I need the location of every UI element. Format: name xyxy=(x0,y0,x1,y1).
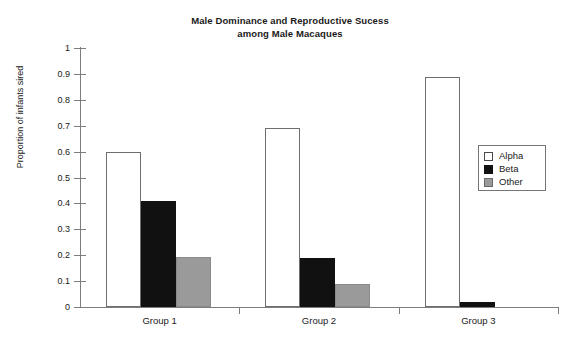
legend-swatch-other-icon xyxy=(484,178,493,187)
y-axis-tick-label: 0.7 xyxy=(26,121,70,130)
bar-alpha-group-1 xyxy=(106,152,141,307)
x-axis-label-group-3: Group 3 xyxy=(433,315,523,327)
chart-title: Male Dominance and Reproductive Sucess a… xyxy=(120,14,460,40)
x-axis-line xyxy=(80,307,558,308)
legend-item-alpha: Alpha xyxy=(484,150,545,162)
legend-label-other: Other xyxy=(499,177,523,187)
legend-item-other: Other xyxy=(484,176,545,188)
x-axis-tick xyxy=(399,307,400,314)
x-axis-label-group-2: Group 2 xyxy=(274,315,364,327)
y-axis-tick-label: 0.1 xyxy=(26,277,70,286)
y-axis-tick-label: 0.5 xyxy=(26,173,70,182)
x-axis-tick xyxy=(239,307,240,314)
chart-title-line-1: Male Dominance and Reproductive Sucess xyxy=(191,15,389,26)
bar-other-group-2 xyxy=(335,284,370,307)
legend: Alpha Beta Other xyxy=(478,145,546,191)
legend-swatch-beta-icon xyxy=(484,165,493,174)
y-axis-tick-labels: 10.90.80.70.60.50.40.30.20.10 xyxy=(20,0,70,345)
y-axis-tick-label: 0.3 xyxy=(26,225,70,234)
bar-chart: Male Dominance and Reproductive Sucess a… xyxy=(0,0,579,345)
bar-beta-group-3 xyxy=(460,302,495,307)
legend-item-beta: Beta xyxy=(484,163,545,175)
legend-swatch-alpha-icon xyxy=(484,152,493,161)
y-axis-tick-label: 0.2 xyxy=(26,251,70,260)
legend-label-beta: Beta xyxy=(499,164,519,174)
y-axis-tick-label: 0.9 xyxy=(26,69,70,78)
bar-beta-group-2 xyxy=(300,258,335,307)
x-axis-tick xyxy=(558,307,559,314)
y-axis-tick-label: 0.8 xyxy=(26,95,70,104)
x-axis-label-group-1: Group 1 xyxy=(115,315,205,327)
bar-beta-group-1 xyxy=(141,201,176,307)
y-axis-tick-label: 0.4 xyxy=(26,199,70,208)
y-axis-tick-label: 0.6 xyxy=(26,147,70,156)
y-axis-tick-label: 1 xyxy=(26,44,70,53)
legend-label-alpha: Alpha xyxy=(499,151,523,161)
y-axis-tick xyxy=(74,307,86,308)
chart-title-line-2: among Male Macaques xyxy=(120,27,460,40)
bar-other-group-1 xyxy=(176,257,211,308)
y-axis-tick-label: 0 xyxy=(26,303,70,312)
bar-alpha-group-3 xyxy=(425,77,460,308)
bar-alpha-group-2 xyxy=(265,128,300,307)
